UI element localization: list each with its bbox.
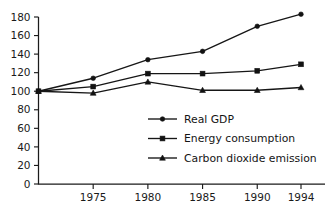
legend-label: Energy consumption	[184, 132, 295, 145]
x-axis-ticks: 19751980198519901994	[80, 184, 315, 203]
x-tick-label: 1980	[135, 191, 162, 203]
legend-item: Carbon dioxide emission	[148, 152, 317, 165]
data-point-marker	[146, 57, 151, 62]
y-tick-label: 20	[17, 159, 30, 171]
legend-marker-circle-icon	[160, 117, 165, 122]
legend-marker-square-icon	[160, 136, 165, 141]
data-series	[36, 12, 303, 94]
legend-item: Real GDP	[148, 113, 234, 126]
chart-legend: Real GDPEnergy consumptionCarbon dioxide…	[148, 113, 317, 165]
y-tick-label: 40	[17, 141, 30, 153]
y-tick-label: 0	[24, 178, 31, 190]
y-tick-label: 120	[10, 66, 30, 78]
data-series	[36, 62, 303, 94]
data-point-marker	[299, 62, 304, 67]
y-tick-label: 100	[10, 85, 30, 97]
legend-label: Carbon dioxide emission	[184, 152, 317, 165]
data-point-marker	[145, 71, 150, 76]
data-point-marker	[200, 49, 205, 54]
data-point-marker	[299, 12, 304, 17]
legend-label: Real GDP	[184, 113, 234, 126]
data-point-marker	[200, 71, 205, 76]
x-tick-label: 1985	[189, 191, 216, 203]
data-series	[36, 79, 304, 95]
series-line	[39, 64, 302, 91]
data-point-marker	[255, 24, 260, 29]
data-point-marker	[145, 79, 151, 84]
line-chart: 0204060801001201401601801975198019851990…	[0, 0, 330, 206]
x-tick-label: 1975	[80, 191, 107, 203]
x-tick-label: 1990	[244, 191, 271, 203]
data-point-marker	[91, 76, 96, 81]
y-axis-ticks: 020406080100120140160180	[10, 11, 38, 190]
data-point-marker	[255, 68, 260, 73]
y-tick-label: 160	[10, 29, 30, 41]
y-tick-label: 140	[10, 48, 30, 60]
y-tick-label: 180	[10, 11, 30, 23]
series-line	[39, 14, 302, 91]
data-point-marker	[91, 84, 96, 89]
y-tick-label: 80	[17, 103, 30, 115]
y-tick-label: 60	[17, 122, 30, 134]
legend-item: Energy consumption	[148, 132, 295, 145]
chart-container: 0204060801001201401601801975198019851990…	[0, 0, 330, 206]
x-tick-label: 1994	[288, 191, 315, 203]
